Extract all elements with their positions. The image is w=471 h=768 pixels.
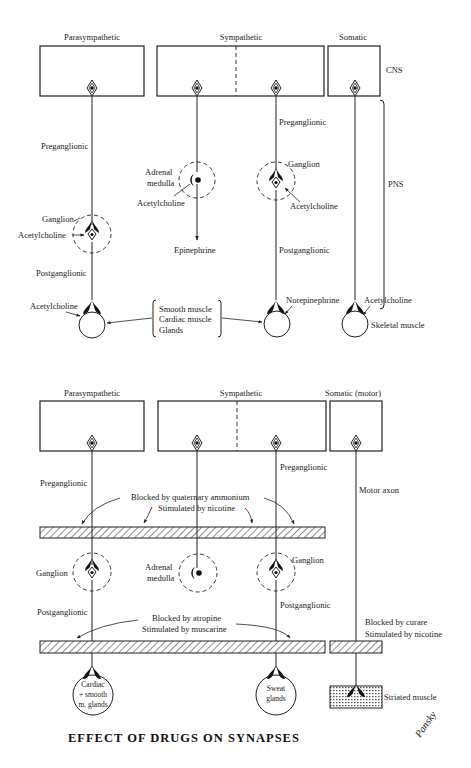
motor-axon-label: Motor axon — [359, 485, 400, 495]
muscarinic-block-line1: Blocked by atropine — [152, 613, 221, 623]
top-adrenal-ach-label: Acetylcholine — [137, 198, 185, 208]
top-symp-ganglion-ach-label: Acetylcholine — [290, 201, 338, 211]
bottom-somatic-heading: Somatic (motor) — [325, 388, 381, 398]
top-symp-ganglion-label: Ganglion — [288, 159, 320, 169]
pns-bracket — [380, 100, 384, 309]
top-para-ganglion-ach-label: Acetylcholine — [18, 230, 66, 240]
ganglionic-drug-barrier — [40, 527, 325, 538]
bottom-sweat-gland-line1: Sweat — [267, 684, 286, 693]
top-adrenal-cell-icon — [195, 177, 201, 183]
top-parasympathetic-heading: Parasympathetic — [64, 32, 120, 42]
top-symp-effector-cell — [264, 311, 290, 337]
effector-glands: Glands — [159, 325, 183, 335]
bottom-para-effector-line2: + smooth — [79, 690, 107, 699]
bottom-adrenal-label-line1: Adrenal — [145, 562, 173, 572]
cns-label: CNS — [386, 65, 403, 75]
striated-muscle-label: Striated muscle — [384, 692, 437, 702]
bottom-adrenal-cell-icon — [196, 570, 202, 576]
artist-signature: Pansky — [412, 709, 438, 740]
top-panel: Parasympathetic Sympathetic Somatic CNS … — [18, 32, 425, 338]
bottom-symp-postganglionic-label: Postganglionic — [280, 600, 331, 610]
effectors-left-brace — [153, 300, 156, 337]
signature-text: Pansky — [412, 709, 438, 740]
muscarinic-block-line2: Stimulated by muscarine — [142, 624, 227, 634]
neuromuscular-drug-barrier — [330, 641, 382, 653]
bottom-sympathetic-heading: Sympathetic — [220, 388, 263, 398]
bottom-para-postganglionic-label: Postganglionic — [37, 607, 88, 617]
top-adrenal-label-line1: Adrenal — [145, 167, 173, 177]
top-somatic-ach-label: Acetylcholine — [364, 295, 412, 305]
bottom-para-effector-line1: Cardiac — [81, 680, 105, 689]
bottom-sympathetic-cns-box — [158, 401, 326, 451]
bottom-symp-cns-soma-icon — [271, 435, 281, 451]
top-adrenal-label-line2: medulla — [147, 178, 175, 188]
top-norepinephrine-label: Norepinephrine — [286, 295, 340, 305]
top-skeletal-muscle-label: Skeletal muscle — [371, 320, 425, 330]
top-symp-ganglion-icon — [269, 168, 283, 188]
muscarinic-drug-barrier — [40, 641, 325, 653]
ganglionic-block-line1: Blocked by quaternary ammonium — [131, 492, 250, 502]
top-para-effector-ach-label: Acetylcholine — [30, 301, 78, 311]
synapse-drug-effects-diagram: Parasympathetic Sympathetic Somatic CNS … — [0, 0, 471, 768]
top-symp-postganglionic-label: Postganglionic — [279, 245, 330, 255]
bottom-adrenal-label-line2: medulla — [147, 573, 175, 583]
pns-label: PNS — [388, 179, 404, 189]
bottom-panel: Parasympathetic Sympathetic Somatic (mot… — [36, 388, 442, 715]
top-somatic-cns-soma-icon — [350, 80, 360, 96]
bottom-para-ganglion-label: Ganglion — [36, 568, 68, 578]
top-sympathetic-cns-box — [157, 46, 324, 96]
figure-title: EFFECT OF DRUGS ON SYNAPSES — [68, 731, 300, 745]
neuromuscular-block-line2: Stimulated by nicotine — [365, 629, 442, 639]
top-somatic-heading: Somatic — [339, 32, 367, 42]
top-somatic-terminal-icon — [346, 300, 364, 314]
top-symp-cns-soma-icon — [271, 80, 281, 96]
top-para-effector-cell — [79, 312, 105, 338]
effector-smooth-muscle: Smooth muscle — [159, 304, 212, 314]
top-para-cns-soma-icon — [87, 80, 97, 96]
bottom-symp-preganglionic-label: Preganglionic — [280, 462, 327, 472]
top-symp-preganglionic-label: Preganglionic — [279, 117, 326, 127]
effectors-right-brace — [218, 300, 221, 337]
top-para-ganglion-label: Ganglion — [42, 214, 74, 224]
bottom-para-effector-line3: m. glands — [78, 700, 107, 709]
striated-muscle-block — [330, 686, 382, 708]
bottom-sweat-gland-line2: glands — [266, 694, 286, 703]
top-epinephrine-label: Epinephrine — [174, 245, 216, 255]
top-sympathetic-heading: Sympathetic — [220, 32, 263, 42]
bottom-para-preganglionic-label: Preganglionic — [40, 478, 87, 488]
bottom-parasympathetic-heading: Parasympathetic — [64, 388, 120, 398]
effector-cardiac-muscle: Cardiac muscle — [159, 314, 212, 324]
top-para-postganglionic-label: Postganglionic — [36, 268, 87, 278]
top-para-preganglionic-label: Preganglionic — [41, 141, 88, 151]
bottom-symp-ganglion-label: Ganglion — [292, 555, 324, 565]
top-symp-adrenal-cns-soma-icon — [192, 80, 202, 96]
bottom-somatic-cns-soma-icon — [351, 435, 361, 451]
bottom-symp-adrenal-cns-soma-icon — [192, 435, 202, 451]
bottom-para-cns-soma-icon — [87, 435, 97, 451]
top-skeletal-muscle-cell — [342, 311, 368, 337]
neuromuscular-block-line1: Blocked by curare — [365, 617, 428, 627]
